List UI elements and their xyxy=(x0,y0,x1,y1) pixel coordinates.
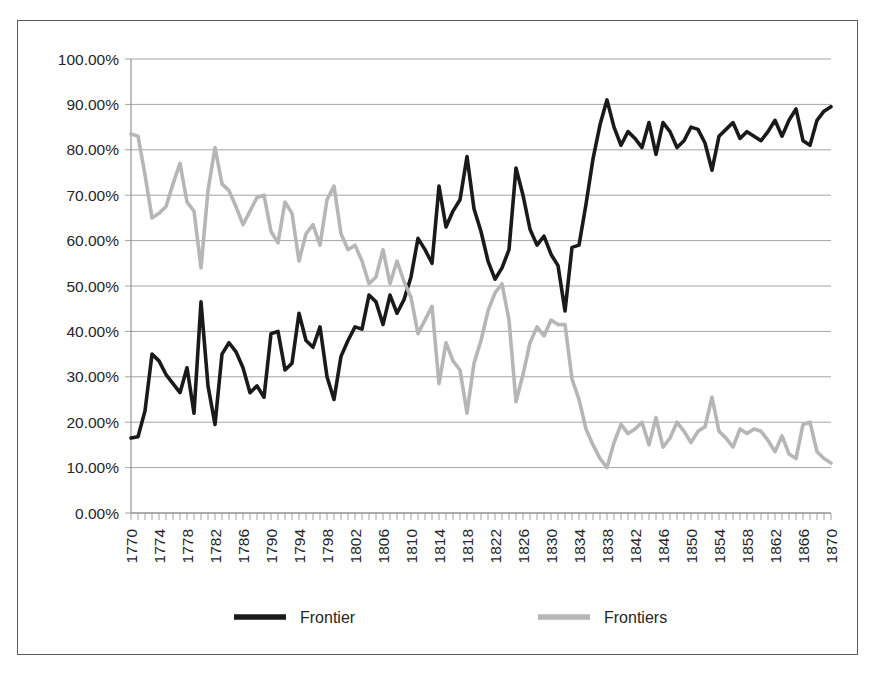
y-axis-ticks xyxy=(125,59,131,513)
x-tick-label: 1830 xyxy=(543,529,560,564)
x-axis-ticks xyxy=(131,513,831,520)
x-tick-label: 1798 xyxy=(319,529,336,563)
x-tick-label: 1826 xyxy=(515,529,532,563)
y-tick-label: 40.00% xyxy=(66,323,119,340)
x-tick-label: 1806 xyxy=(375,529,392,563)
x-tick-label: 1814 xyxy=(431,529,448,564)
line-chart-svg: 0.00%10.00%20.00%30.00%40.00%50.00%60.00… xyxy=(18,21,859,656)
y-tick-label: 100.00% xyxy=(58,51,119,68)
y-tick-label: 90.00% xyxy=(66,96,119,113)
y-tick-label: 80.00% xyxy=(66,141,119,158)
chart-container: 0.00%10.00%20.00%30.00%40.00%50.00%60.00… xyxy=(17,20,858,655)
x-tick-label: 1854 xyxy=(711,529,728,564)
x-tick-label: 1866 xyxy=(795,529,812,563)
plot-area: 0.00%10.00%20.00%30.00%40.00%50.00%60.00… xyxy=(18,21,859,656)
x-tick-label: 1778 xyxy=(179,529,196,563)
legend-label-frontiers: Frontiers xyxy=(604,609,667,626)
y-tick-label: 10.00% xyxy=(66,459,119,476)
x-tick-label: 1770 xyxy=(123,529,140,564)
y-tick-label: 60.00% xyxy=(66,232,119,249)
x-tick-label: 1774 xyxy=(151,529,168,564)
x-axis-tick-labels: 1770177417781782178617901794179818021806… xyxy=(123,529,840,564)
x-tick-label: 1850 xyxy=(683,529,700,564)
y-axis-tick-labels: 0.00%10.00%20.00%30.00%40.00%50.00%60.00… xyxy=(58,51,119,522)
y-tick-label: 20.00% xyxy=(66,414,119,431)
x-tick-label: 1862 xyxy=(767,529,784,563)
x-tick-label: 1802 xyxy=(347,529,364,563)
x-tick-label: 1782 xyxy=(207,529,224,563)
x-tick-label: 1858 xyxy=(739,529,756,563)
x-tick-label: 1838 xyxy=(599,529,616,563)
x-tick-label: 1842 xyxy=(627,529,644,563)
x-tick-label: 1822 xyxy=(487,529,504,563)
x-tick-label: 1786 xyxy=(235,529,252,563)
y-tick-label: 70.00% xyxy=(66,187,119,204)
x-tick-label: 1818 xyxy=(459,529,476,563)
y-tick-label: 30.00% xyxy=(66,368,119,385)
y-tick-label: 0.00% xyxy=(75,505,119,522)
x-tick-label: 1870 xyxy=(823,529,840,564)
x-tick-label: 1834 xyxy=(571,529,588,564)
series-line-frontiers xyxy=(131,134,831,468)
chart-legend: FrontierFrontiers xyxy=(234,609,667,626)
x-tick-label: 1794 xyxy=(291,529,308,564)
x-tick-label: 1846 xyxy=(655,529,672,563)
y-tick-label: 50.00% xyxy=(66,278,119,295)
legend-label-frontier: Frontier xyxy=(300,609,356,626)
series-line-frontier xyxy=(131,100,831,438)
data-series xyxy=(131,100,831,468)
x-tick-label: 1810 xyxy=(403,529,420,564)
x-tick-label: 1790 xyxy=(263,529,280,564)
